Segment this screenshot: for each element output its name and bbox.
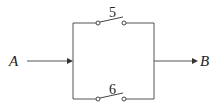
node-label-a: A <box>8 53 19 69</box>
arrowhead-icon <box>192 58 198 64</box>
circuit-diagram: A 5 6 B <box>0 0 219 110</box>
switch-label-5: 5 <box>109 5 116 20</box>
output-arrow <box>154 58 198 64</box>
switch-contact-icon <box>96 97 100 101</box>
switch-contact-icon <box>96 21 100 25</box>
node-label-b: B <box>200 53 209 69</box>
input-arrow <box>27 58 73 64</box>
bottom-branch: 6 <box>73 82 154 101</box>
switch-contact-icon <box>122 21 126 25</box>
arrowhead-icon <box>67 58 73 64</box>
switch-label-6: 6 <box>109 82 116 97</box>
top-branch: 5 <box>73 5 154 25</box>
switch-contact-icon <box>122 97 126 101</box>
